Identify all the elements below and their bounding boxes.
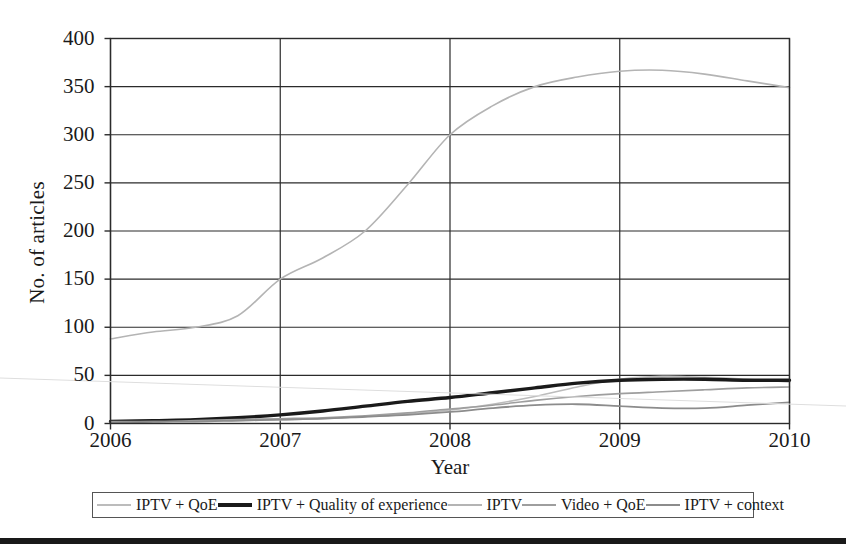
chart-legend: IPTV + QoEIPTV + Quality of experienceIP… — [92, 492, 754, 518]
x-tick-label: 2009 — [575, 430, 665, 451]
legend-line-swatch — [97, 504, 131, 506]
bottom-divider-rule — [0, 538, 846, 544]
legend-item-label: IPTV + context — [685, 497, 784, 513]
x-tick-label: 2008 — [405, 430, 495, 451]
x-tick-label: 2007 — [235, 430, 325, 451]
axis-ticks — [105, 39, 790, 430]
legend-item: IPTV — [448, 497, 523, 513]
legend-item-label: IPTV — [487, 497, 523, 513]
x-tick-label: 2010 — [745, 430, 835, 451]
legend-item: Video + QoE — [522, 497, 646, 513]
legend-item-label: IPTV + QoE — [136, 497, 218, 513]
legend-item-label: IPTV + Quality of experience — [257, 497, 448, 513]
x-axis-title: Year — [110, 455, 790, 480]
gridlines — [111, 39, 790, 424]
chart-figure: 050100150200250300350400 200620072008200… — [0, 0, 846, 553]
legend-line-swatch — [218, 503, 252, 507]
legend-item-label: Video + QoE — [561, 497, 646, 513]
legend-item: IPTV + Quality of experience — [218, 497, 448, 513]
legend-line-swatch — [448, 504, 482, 506]
y-tick-label: 400 — [35, 28, 95, 49]
x-tick-label: 2006 — [66, 430, 156, 451]
y-tick-label: 300 — [35, 124, 95, 145]
legend-item: IPTV + context — [646, 497, 784, 513]
legend-item: IPTV + QoE — [97, 497, 218, 513]
legend-line-swatch — [522, 504, 556, 506]
y-tick-label: 50 — [35, 364, 95, 385]
y-tick-label: 350 — [35, 76, 95, 97]
y-axis-title: No. of articles — [25, 163, 50, 323]
legend-line-swatch — [646, 504, 680, 506]
